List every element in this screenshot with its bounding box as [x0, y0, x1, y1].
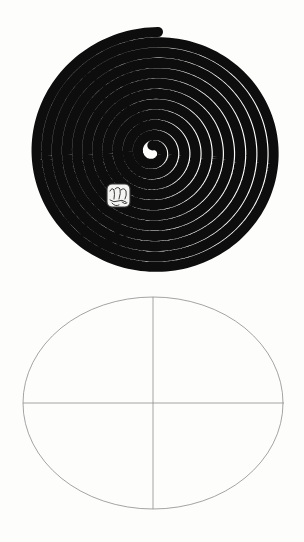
ellipse-figure: Outlined ellipse with crosshair axes	[0, 285, 304, 542]
spiral-figure: Concentric black-and-white spiral disc	[0, 0, 304, 285]
spiral-graphic	[0, 0, 304, 285]
ellipse-graphic	[0, 285, 304, 542]
figure-sheet: Concentric black-and-white spiral disc O…	[0, 0, 304, 542]
handwritten-scribble-icon	[107, 184, 130, 207]
ellipse-paper	[0, 285, 304, 542]
spiral-stroke	[37, 32, 274, 267]
spiral-path-group	[37, 32, 274, 267]
